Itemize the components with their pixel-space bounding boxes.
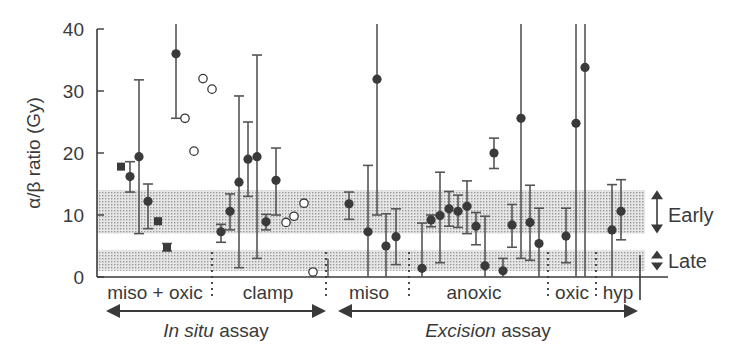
filled-marker [344,199,353,208]
filled-marker [171,49,180,58]
open-marker [181,114,189,122]
y-axis-label: α/β ratio (Gy) [23,97,44,209]
filled-marker [471,222,480,231]
y-tick-label: 40 [63,19,84,40]
filled-marker [507,220,516,229]
axes: 010203040α/β ratio (Gy) [23,19,668,288]
filled-marker [261,217,270,226]
filled-marker [498,266,507,275]
filled-marker [435,211,444,220]
filled-marker [516,114,525,123]
open-marker [309,268,317,276]
filled-marker [426,215,435,224]
open-marker [208,85,216,93]
square-marker [154,217,162,225]
square-marker [163,243,171,251]
y-tick-label: 20 [63,143,84,164]
filled-marker [580,63,589,72]
filled-marker [381,241,390,250]
filled-marker [534,239,543,248]
group-label: hyp [603,282,634,303]
band-late [97,250,645,270]
open-marker [199,74,207,82]
assay-label: Excision assay [425,320,551,341]
filled-marker [134,152,143,161]
arrow-down-icon [651,263,663,271]
filled-marker [363,227,372,236]
filled-marker [391,232,400,241]
filled-marker [480,261,489,270]
open-marker [190,147,198,155]
y-tick-label: 10 [63,205,84,226]
band-early [97,190,645,233]
group-label: oxic [555,282,589,303]
y-tick-label: 0 [73,267,84,288]
arrow-up-icon [651,251,663,259]
filled-marker [271,176,280,185]
filled-marker [143,197,152,206]
filled-marker [525,218,534,227]
group-label: clamp [243,282,294,303]
arrow-right-icon [624,304,638,318]
open-marker [290,212,298,220]
arrow-right-icon [312,304,326,318]
open-marker [282,218,290,226]
assay-label: In situ assay [163,320,269,341]
filled-marker [607,225,616,234]
filled-marker [571,119,580,128]
group-label: miso + oxic [107,282,203,303]
square-marker [117,163,125,171]
alpha-beta-chart: 010203040α/β ratio (Gy) miso + oxicclamp… [0,0,732,360]
arrow-left-icon [338,304,352,318]
group-label: miso [349,282,389,303]
filled-marker [225,207,234,216]
data-points [117,24,626,277]
y-tick-label: 30 [63,81,84,102]
arrow-up-icon [651,190,663,199]
filled-marker [243,155,252,164]
filled-marker [453,207,462,216]
filled-marker [444,204,453,213]
filled-marker [234,178,243,187]
arrow-left-icon [106,304,120,318]
filled-marker [489,148,498,157]
group-label: anoxic [447,282,502,303]
arrow-down-icon [651,225,663,234]
filled-marker [561,231,570,240]
filled-marker [252,152,261,161]
late-label: Late [668,250,707,272]
filled-marker [616,207,625,216]
filled-marker [125,172,134,181]
filled-marker [372,75,381,84]
filled-marker [216,227,225,236]
filled-marker [462,202,471,211]
filled-marker [417,264,426,273]
open-marker [300,199,308,207]
early-label: Early [668,204,714,226]
